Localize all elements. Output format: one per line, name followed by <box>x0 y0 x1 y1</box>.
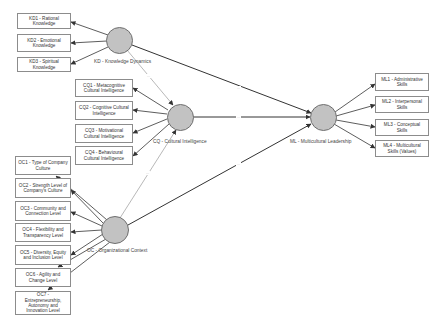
indicator-oc5[interactable]: OC5 - Diversity, Equity and Inclusion Le… <box>15 245 71 265</box>
path-label-oc-ml: ... <box>236 162 241 166</box>
construct-ml[interactable] <box>310 104 337 131</box>
construct-kd[interactable] <box>106 27 133 54</box>
indicator-oc3[interactable]: OC3 - Community and Connection Level <box>15 201 71 221</box>
indicator-oc6[interactable]: OC6 - Agility and Change Level <box>15 268 71 287</box>
indicator-cq4[interactable]: CQ4 - Behavioural Cultural Intelligence <box>75 146 133 165</box>
indicator-oc1[interactable]: OC1 - Type of Company Culture <box>15 156 71 175</box>
indicator-kd1[interactable]: KD1 - Rational Knowledge <box>17 13 71 29</box>
construct-label-kd: KD - Knowledge Dynamics <box>94 59 151 64</box>
indicator-oc7[interactable]: OC7 - Entrepreneurship, Autonomy and Inn… <box>15 291 71 315</box>
indicator-cq3[interactable]: CQ3 - Motivational Cultural Intelligence <box>75 124 133 143</box>
construct-label-oc: OC - Organizational Context <box>87 248 147 253</box>
indicator-ml4[interactable]: ML4 - Multicultural Skills (Values) <box>375 140 429 157</box>
indicator-kd3[interactable]: KD3 - Spiritual Knowledge <box>17 57 71 72</box>
path-label-kd-cq: ... <box>146 74 151 78</box>
path-label-cq-ml: ... <box>236 115 241 119</box>
indicator-kd2[interactable]: KD2 - Emotional Knowledge <box>17 34 71 52</box>
path-label-oc-cq: ... <box>145 171 150 175</box>
indicator-cq2[interactable]: CQ2 - Cognitive Cultural Intelligence <box>75 101 133 120</box>
construct-cq[interactable] <box>167 104 194 131</box>
construct-label-ml: ML - Multicultural Leadership <box>290 139 351 144</box>
indicator-cq1[interactable]: CQ1 - Metacognitive Cultural Intelligenc… <box>75 79 133 97</box>
construct-oc[interactable] <box>101 216 129 244</box>
indicator-oc2[interactable]: OC2 - Strength Level of Company's Cultur… <box>15 178 71 198</box>
path-label-kd-ml: ... <box>236 86 241 90</box>
indicator-ml1[interactable]: ML1 - Administrative Skills <box>375 73 429 91</box>
construct-label-cq: CQ - Cultural Intelligence <box>153 139 207 144</box>
indicator-ml3[interactable]: ML3 - Conceptual Skills <box>375 119 429 136</box>
indicator-ml2[interactable]: ML2 - Interpersonal Skills <box>375 96 429 113</box>
indicator-oc4[interactable]: OC4 - Flexibility and Transparency Level <box>15 223 71 242</box>
